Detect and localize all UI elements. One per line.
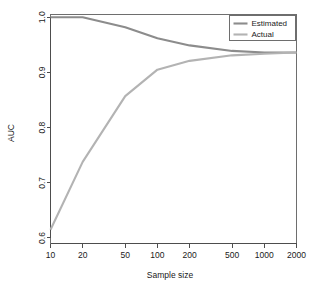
x-axis-tick-label: 20 — [78, 250, 88, 260]
y-axis-tick-label: 0.8 — [38, 121, 48, 133]
y-axis-tick-label: 0.7 — [38, 177, 48, 189]
legend-label-actual: Actual — [252, 30, 274, 39]
y-axis-title: AUC — [6, 124, 16, 142]
plot-area: 0.60.70.80.91.0 10205010020050010002000 … — [0, 0, 314, 295]
x-axis-tick-label: 50 — [120, 250, 130, 260]
y-axis-tick-label: 0.6 — [38, 232, 48, 244]
x-axis-tick-label: 200 — [182, 250, 196, 260]
x-axis-tick-label: 500 — [225, 250, 239, 260]
x-axis-tick-label: 1000 — [255, 250, 274, 260]
y-axis-tick-label: 1.0 — [38, 11, 48, 23]
auc-vs-sample-size-chart: 0.60.70.80.91.0 10205010020050010002000 … — [0, 0, 314, 295]
chart-legend: EstimatedActual — [230, 16, 296, 41]
legend-label-estimated: Estimated — [252, 19, 288, 28]
x-axis-tick-label: 100 — [150, 250, 164, 260]
x-axis-tick-label: 10 — [46, 250, 56, 260]
x-axis-tick-label: 2000 — [287, 250, 306, 260]
x-axis-title: Sample size — [147, 270, 194, 280]
y-axis-tick-label: 0.9 — [38, 66, 48, 78]
